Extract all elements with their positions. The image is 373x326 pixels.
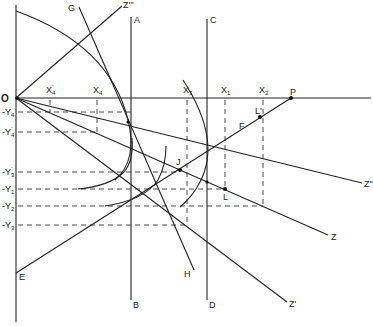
label-Z-prime: Z' xyxy=(289,299,296,309)
point-intersect-2 xyxy=(205,180,208,183)
label-y4: -Y4 xyxy=(2,107,15,118)
label-D: D xyxy=(209,300,216,310)
label-G: G xyxy=(68,3,75,13)
label-x4p: X4' xyxy=(46,84,56,96)
label-Z-triple: Z''' xyxy=(123,0,134,10)
label-P: P xyxy=(290,87,296,97)
label-y2: -Y2 xyxy=(2,201,15,212)
line-G-H xyxy=(79,7,194,270)
ray-O-Zprime3 xyxy=(16,6,122,98)
ray-O-Zprime xyxy=(16,98,287,302)
label-A: A xyxy=(134,15,140,25)
label-E: E xyxy=(19,272,25,282)
label-x2: X2 xyxy=(259,85,269,96)
arc-large xyxy=(16,11,131,180)
label-x3: X3 xyxy=(183,85,193,96)
label-x1: X1 xyxy=(221,85,231,96)
point-J xyxy=(178,168,182,172)
label-B: B xyxy=(133,300,139,310)
label-x4: X4 xyxy=(93,85,103,96)
point-O xyxy=(15,96,19,100)
label-y4p: -Y4' xyxy=(2,126,15,138)
label-F: F xyxy=(239,121,245,131)
label-H: H xyxy=(184,269,191,279)
point-intersect-1 xyxy=(126,120,129,123)
label-C: C xyxy=(210,15,217,25)
label-J: J xyxy=(176,157,181,167)
ray-O-Z xyxy=(16,98,328,235)
label-L-prime: L' xyxy=(255,106,262,116)
label-y3: -Y3 xyxy=(2,220,15,231)
ray-O-Zdouble xyxy=(16,98,362,183)
label-origin: O xyxy=(1,93,9,104)
arc-right xyxy=(180,80,208,207)
label-Z: Z xyxy=(331,232,337,242)
label-L: L xyxy=(223,192,228,202)
diagram-canvas: O X4' X4 X3 X1 X2 -Y4 -Y4' -Y3' -Y1 -Y2 … xyxy=(0,0,373,326)
label-y3p: -Y3' xyxy=(2,166,15,178)
label-y1: -Y1 xyxy=(2,184,15,195)
point-L xyxy=(223,187,227,191)
label-Z-double: Z" xyxy=(364,179,373,189)
